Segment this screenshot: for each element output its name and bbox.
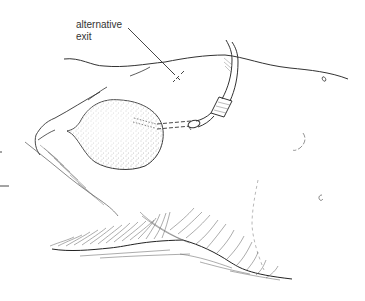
face-fold [38, 130, 55, 140]
skin-fold-line [130, 67, 150, 76]
annotation-leader [128, 28, 174, 74]
hair-hatching [50, 208, 280, 280]
skin-mark [321, 76, 326, 82]
anatomy-drawing [0, 0, 365, 301]
annotation-label-line2: exit [76, 31, 92, 42]
external-catheter [222, 40, 238, 101]
exit-cross-icon [172, 71, 184, 82]
back-contour [252, 180, 264, 270]
reservoir-balloon [67, 100, 163, 170]
skin-mark-c [319, 195, 323, 200]
illustration-canvas: alternative exit [0, 0, 365, 301]
catheter-sleeve [211, 97, 232, 117]
hairline-contour [52, 240, 292, 279]
catheter-connector-icon [187, 113, 214, 130]
ear-contour [293, 133, 305, 150]
skin-contour-upper [64, 55, 348, 79]
exit-site-shading [224, 58, 231, 72]
annotation-label-line1: alternative [76, 19, 122, 30]
